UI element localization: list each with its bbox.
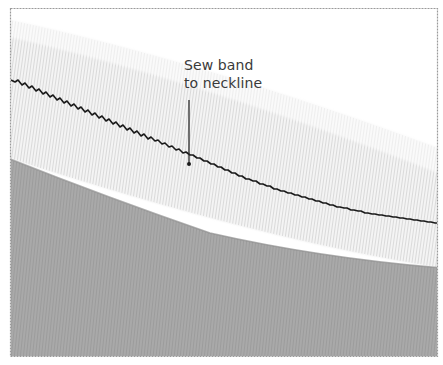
illustration <box>0 0 443 365</box>
callout-label: Sew band to neckline <box>184 56 262 92</box>
leader-dot <box>187 162 191 166</box>
callout-line-2: to neckline <box>184 74 262 92</box>
callout-line-1: Sew band <box>184 56 262 74</box>
sewing-figure: Sew band to neckline <box>0 0 443 365</box>
